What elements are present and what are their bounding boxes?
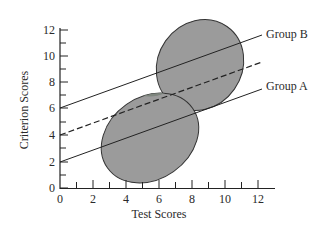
y-tick-label: 8 <box>49 75 55 89</box>
x-tick-label: 8 <box>189 192 195 206</box>
x-tick-label: 6 <box>156 192 162 206</box>
y-axis-title: Criterion Scores <box>17 71 31 150</box>
x-ticks <box>77 180 259 188</box>
y-tick-label: 12 <box>43 23 55 37</box>
y-tick-label: 6 <box>49 101 55 115</box>
x-tick-label: 12 <box>252 192 264 206</box>
y-tick-label: 10 <box>43 49 55 63</box>
x-axis-title: Test Scores <box>132 207 187 221</box>
chart: 0 2 4 6 8 10 12 0 2 4 6 8 10 12 Test Sco… <box>0 0 326 238</box>
y-tick-label: 4 <box>49 128 55 142</box>
x-tick-label: 2 <box>90 192 96 206</box>
group-b-label: Group B <box>266 27 308 41</box>
x-tick-labels: 0 2 4 6 8 10 12 <box>57 192 264 206</box>
x-tick-label: 4 <box>123 192 129 206</box>
group-a-label: Group A <box>266 79 308 93</box>
x-tick-label: 0 <box>57 192 63 206</box>
y-tick-label: 2 <box>49 155 55 169</box>
x-tick-label: 10 <box>219 192 231 206</box>
y-ticks <box>60 30 68 188</box>
y-tick-labels: 0 2 4 6 8 10 12 <box>43 23 55 195</box>
y-tick-label: 0 <box>49 181 55 195</box>
